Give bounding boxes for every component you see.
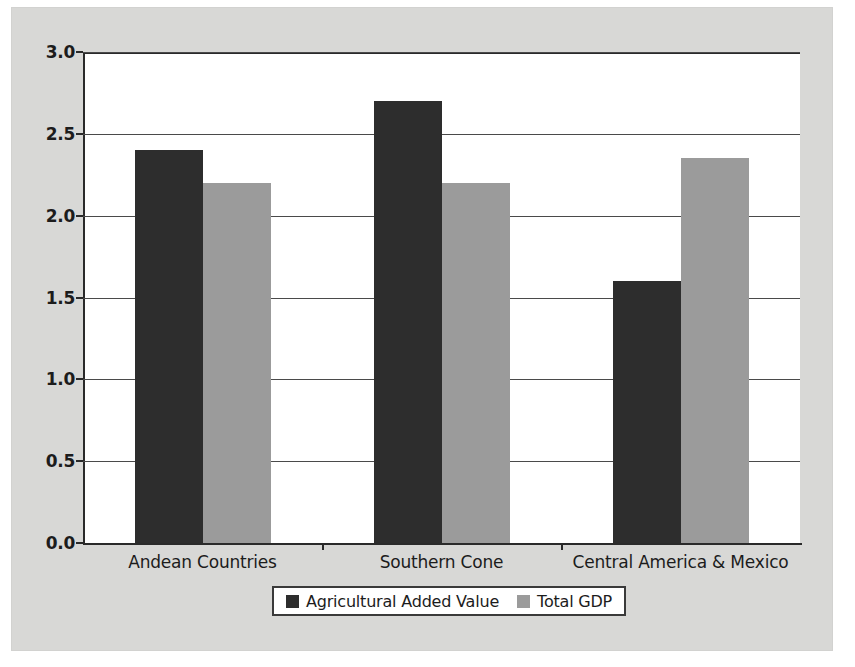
y-tick-label: 1.0 — [29, 369, 75, 389]
legend-swatch-icon — [517, 595, 530, 608]
legend-entry: Total GDP — [517, 592, 612, 611]
y-tick-mark — [76, 297, 83, 299]
y-tick-mark — [76, 460, 83, 462]
bar — [135, 150, 203, 543]
x-tick-label: Andean Countries — [83, 552, 322, 572]
x-tick-label: Southern Cone — [322, 552, 561, 572]
bar — [442, 183, 510, 543]
y-tick-label: 2.0 — [29, 206, 75, 226]
legend-label: Total GDP — [537, 592, 612, 611]
legend-entry: Agricultural Added Value — [286, 592, 499, 611]
y-tick-label: 1.5 — [29, 288, 75, 308]
x-axis-line — [83, 543, 802, 545]
y-tick-mark — [76, 51, 83, 53]
x-tick-label: Central America & Mexico — [561, 552, 800, 572]
y-tick-label: 0.0 — [29, 533, 75, 553]
y-tick-label: 3.0 — [29, 42, 75, 62]
x-tick-mark — [561, 543, 563, 550]
y-tick-label: 2.5 — [29, 124, 75, 144]
y-tick-label: 0.5 — [29, 451, 75, 471]
bar — [203, 183, 271, 543]
bar — [681, 158, 749, 543]
legend-swatch-icon — [286, 595, 299, 608]
bar — [613, 281, 681, 543]
chart-figure: 0.00.51.01.52.02.53.0 Andean CountriesSo… — [0, 0, 855, 667]
legend-label: Agricultural Added Value — [306, 592, 499, 611]
bar — [374, 101, 442, 543]
chart-legend: Agricultural Added ValueTotal GDP — [272, 586, 626, 616]
y-tick-mark — [76, 378, 83, 380]
gridline — [83, 52, 800, 53]
y-tick-mark — [76, 215, 83, 217]
x-tick-mark — [322, 543, 324, 550]
y-tick-mark — [76, 542, 83, 544]
y-tick-mark — [76, 133, 83, 135]
